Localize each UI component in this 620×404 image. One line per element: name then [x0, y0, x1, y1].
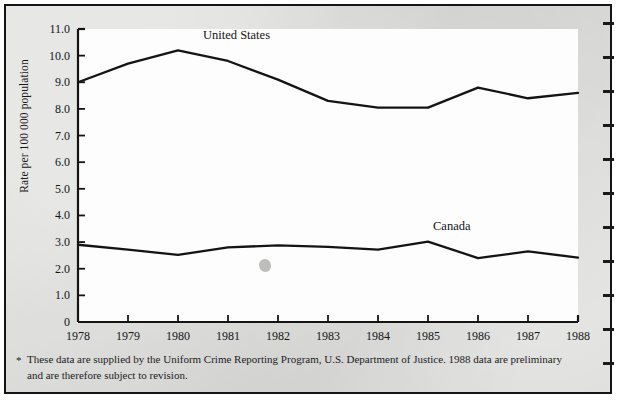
united-states-label: United States: [203, 28, 270, 43]
footnote-text: These data are supplied by the Uniform C…: [16, 352, 576, 384]
footnote-marker: *: [16, 353, 22, 369]
y-tick-label: 6.0: [28, 156, 70, 168]
y-tick-label: 2.0: [28, 263, 70, 275]
y-tick-label: 8.0: [28, 103, 70, 115]
y-tick-label: 5.0: [28, 183, 70, 195]
y-tick-label: 0: [28, 316, 70, 328]
y-tick-label: 4.0: [28, 209, 70, 221]
y-tick-label: 9.0: [28, 76, 70, 88]
y-tick-label: 1.0: [28, 289, 70, 301]
y-tick-label: 3.0: [28, 236, 70, 248]
chart-series: [78, 50, 578, 258]
chart-page: Rate per 100 000 population 11.010.09.08…: [0, 0, 620, 404]
y-tick-label: 11.0: [28, 23, 70, 35]
canada-label: Canada: [433, 219, 470, 234]
footnote: * These data are supplied by the Uniform…: [16, 352, 576, 384]
x-tick-label: 1988: [548, 330, 608, 342]
line-chart: [0, 0, 620, 404]
y-tick-label: 10.0: [28, 50, 70, 62]
y-tick-label: 7.0: [28, 130, 70, 142]
series-line-united-states: [78, 50, 578, 107]
series-line-canada: [78, 242, 578, 259]
chart-axes: [78, 29, 578, 322]
